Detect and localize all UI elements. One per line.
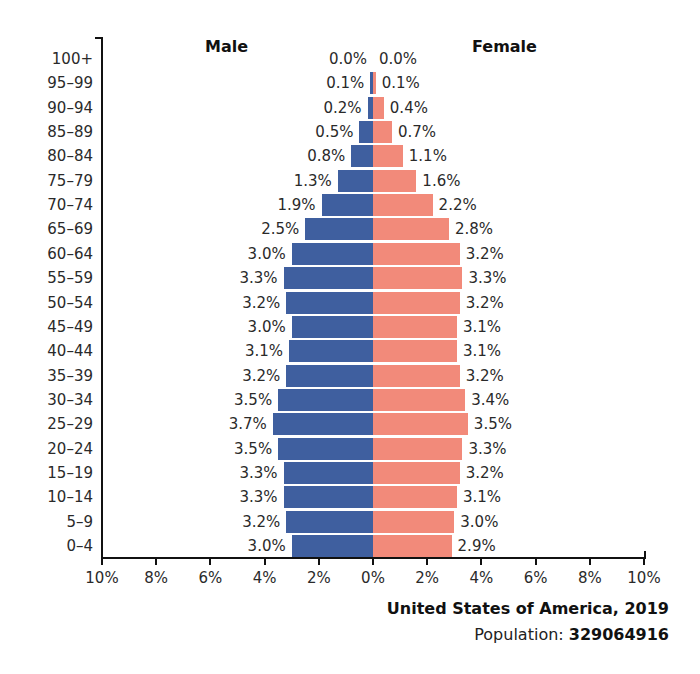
- female-bar: [373, 413, 468, 435]
- male-value-label: 3.5%: [234, 440, 272, 458]
- x-tick-label: 10%: [85, 569, 118, 587]
- female-bar: [373, 365, 460, 387]
- male-bar: [351, 145, 373, 167]
- x-tick: [209, 557, 211, 565]
- male-value-label: 3.2%: [242, 294, 280, 312]
- male-value-label: 3.3%: [239, 269, 277, 287]
- male-value-label: 3.3%: [239, 464, 277, 482]
- female-value-label: 1.6%: [422, 172, 460, 190]
- y-axis-line: [101, 37, 103, 559]
- male-value-label: 3.7%: [229, 415, 267, 433]
- x-tick: [101, 557, 103, 565]
- age-group-label: 30–34: [47, 391, 93, 409]
- female-bar: [373, 535, 452, 557]
- female-value-label: 0.1%: [382, 74, 420, 92]
- age-group-label: 15–19: [47, 464, 93, 482]
- female-bar: [373, 121, 392, 143]
- female-value-label: 0.4%: [390, 99, 428, 117]
- female-bar: [373, 72, 376, 94]
- female-bar: [373, 438, 462, 460]
- female-value-label: 3.2%: [466, 367, 504, 385]
- age-group-label: 5–9: [66, 513, 93, 531]
- female-value-label: 2.8%: [455, 220, 493, 238]
- age-group-label: 40–44: [47, 342, 93, 360]
- age-group-label: 80–84: [47, 147, 93, 165]
- male-value-label: 0.5%: [315, 123, 353, 141]
- age-group-label: 55–59: [47, 269, 93, 287]
- male-bar: [292, 243, 373, 265]
- female-value-label: 3.3%: [468, 440, 506, 458]
- population-line: Population: 329064916: [474, 625, 669, 644]
- female-value-label: 3.2%: [466, 245, 504, 263]
- female-bar: [373, 340, 457, 362]
- male-bar: [273, 413, 373, 435]
- male-value-label: 0.0%: [329, 50, 367, 68]
- age-group-label: 65–69: [47, 220, 93, 238]
- male-value-label: 3.0%: [248, 245, 286, 263]
- x-tick: [535, 557, 537, 565]
- age-group-label: 45–49: [47, 318, 93, 336]
- female-value-label: 2.9%: [458, 537, 496, 555]
- male-bar: [284, 486, 373, 508]
- x-tick: [589, 557, 591, 565]
- female-value-label: 0.0%: [379, 50, 417, 68]
- female-value-label: 1.1%: [409, 147, 447, 165]
- male-value-label: 3.3%: [239, 488, 277, 506]
- male-bar: [292, 535, 373, 557]
- age-group-label: 60–64: [47, 245, 93, 263]
- female-bar: [373, 97, 384, 119]
- chart-title: United States of America, 2019: [387, 599, 669, 618]
- x-tick-label: 6%: [198, 569, 222, 587]
- female-value-label: 3.1%: [463, 342, 501, 360]
- age-group-label: 90–94: [47, 99, 93, 117]
- x-tick-label: 4%: [253, 569, 277, 587]
- population-pyramid-chart: Male Female 100+0.0%0.0%95–990.1%0.1%90–…: [0, 0, 700, 674]
- age-group-label: 50–54: [47, 294, 93, 312]
- female-value-label: 3.1%: [463, 318, 501, 336]
- female-bar: [373, 194, 433, 216]
- female-value-label: 3.1%: [463, 488, 501, 506]
- female-value-label: 3.2%: [466, 294, 504, 312]
- age-group-label: 0–4: [66, 537, 93, 555]
- male-bar: [292, 316, 373, 338]
- x-tick-label: 6%: [524, 569, 548, 587]
- male-bar: [322, 194, 373, 216]
- male-bar: [278, 438, 373, 460]
- male-value-label: 0.1%: [326, 74, 364, 92]
- x-tick-label: 2%: [415, 569, 439, 587]
- age-group-label: 75–79: [47, 172, 93, 190]
- age-group-label: 10–14: [47, 488, 93, 506]
- female-value-label: 3.5%: [474, 415, 512, 433]
- female-value-label: 3.2%: [466, 464, 504, 482]
- male-bar: [286, 292, 373, 314]
- female-value-label: 2.2%: [439, 196, 477, 214]
- age-group-label: 100+: [52, 50, 93, 68]
- female-bar: [373, 145, 403, 167]
- male-value-label: 3.2%: [242, 367, 280, 385]
- x-tick-label: 8%: [578, 569, 602, 587]
- x-tick-label: 0%: [361, 569, 385, 587]
- x-tick: [264, 557, 266, 565]
- male-legend-label: Male: [205, 37, 248, 56]
- female-bar: [373, 243, 460, 265]
- x-tick-label: 4%: [469, 569, 493, 587]
- male-value-label: 0.8%: [307, 147, 345, 165]
- x-tick: [372, 557, 374, 565]
- age-group-label: 20–24: [47, 440, 93, 458]
- male-bar: [284, 462, 373, 484]
- population-label: Population:: [474, 625, 563, 644]
- x-tick: [155, 557, 157, 565]
- male-value-label: 3.1%: [245, 342, 283, 360]
- male-bar: [286, 511, 373, 533]
- male-value-label: 1.3%: [294, 172, 332, 190]
- x-tick-label: 8%: [144, 569, 168, 587]
- female-value-label: 3.4%: [471, 391, 509, 409]
- male-value-label: 0.2%: [323, 99, 361, 117]
- female-bar: [373, 292, 460, 314]
- age-group-label: 35–39: [47, 367, 93, 385]
- female-bar: [373, 267, 462, 289]
- male-bar: [289, 340, 373, 362]
- male-bar: [286, 365, 373, 387]
- male-value-label: 2.5%: [261, 220, 299, 238]
- y-axis-cap: [95, 37, 103, 39]
